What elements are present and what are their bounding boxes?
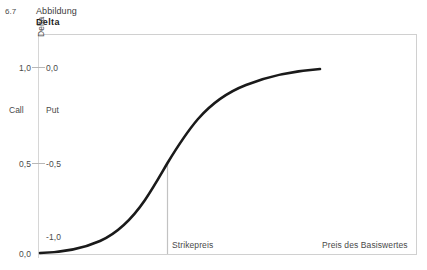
y-tick-label-put-1: 0,0 [46,63,58,73]
y-tick-label-call-1: 1,0 [5,63,31,73]
y-tick-label-put-2: -0,5 [46,159,61,169]
x-axis-label: Preis des Basiswertes [322,240,408,250]
delta-curve [40,69,320,253]
plot-frame [39,35,417,255]
region-label-put: Put [46,105,59,115]
y-tick-label-put-3: -1,0 [46,232,61,242]
y-axis-title: Delta [36,17,46,37]
y-tick-label-call-3: 0,0 [5,249,31,259]
strike-price-label: Strikepreis [172,240,213,250]
plot-area: Delta 1,0 0,5 0,0 0,0 -0,5 -1,0 Call Put… [0,0,427,270]
y-tick-label-call-2: 0,5 [5,159,31,169]
region-label-call: Call [9,105,24,115]
delta-chart [0,0,427,270]
